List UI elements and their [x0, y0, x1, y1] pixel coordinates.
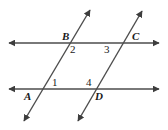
right-transversal-line	[78, 11, 142, 121]
point-label-a: A	[24, 91, 31, 102]
left-transversal-line	[24, 10, 90, 121]
point-label-d: D	[95, 91, 103, 102]
point-label-c: C	[132, 31, 139, 42]
geometry-canvas	[0, 0, 168, 130]
angle-label-1: 1	[52, 77, 58, 88]
geometry-figure: B C A D 2 3 1 4	[0, 0, 168, 130]
angle-label-4: 4	[86, 77, 92, 88]
point-label-b: B	[62, 31, 69, 42]
angle-label-2: 2	[70, 44, 76, 55]
angle-label-3: 3	[104, 44, 110, 55]
